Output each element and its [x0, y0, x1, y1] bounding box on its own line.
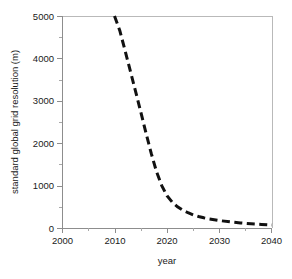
resolution-vs-year-chart: 0 1000 2000 3000 4000 5000 2000 2010 202… — [0, 0, 292, 279]
y-tick-label-1000: 1000 — [33, 180, 54, 191]
x-tick-label-2000: 2000 — [52, 235, 73, 246]
x-axis-title: year — [158, 255, 176, 266]
y-tick-label-3000: 3000 — [33, 95, 54, 106]
x-tick-label-2020: 2020 — [156, 235, 177, 246]
x-tick-label-2040: 2040 — [261, 235, 282, 246]
y-tick-label-4000: 4000 — [33, 53, 54, 64]
chart-figure: 0 1000 2000 3000 4000 5000 2000 2010 202… — [0, 0, 292, 279]
y-tick-label-5000: 5000 — [33, 11, 54, 22]
x-tick-label-2010: 2010 — [104, 235, 125, 246]
y-tick-label-0: 0 — [49, 223, 54, 234]
x-tick-label-2030: 2030 — [209, 235, 230, 246]
y-tick-label-2000: 2000 — [33, 138, 54, 149]
y-axis-title: standard global grid resolution (m) — [9, 50, 20, 194]
